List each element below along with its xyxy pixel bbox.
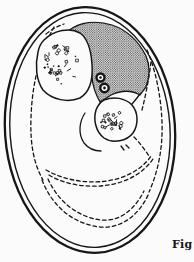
equatorial-dashed-line-upper xyxy=(46,156,151,182)
equatorial-dashed-line-lower xyxy=(49,159,153,186)
bottom-dashed-arc-inner xyxy=(48,179,144,220)
figure-canvas: Fig xyxy=(0,0,194,262)
polar-body-dot-2 xyxy=(103,87,106,90)
left-cell-outline xyxy=(36,30,92,100)
embryo-egg-diagram xyxy=(0,0,194,262)
cell-boundary-dash-right-short xyxy=(134,137,149,156)
tail-dashes-below-small-cell xyxy=(121,145,129,150)
small-cell-region xyxy=(95,98,137,141)
figure-caption-label: Fig xyxy=(172,238,192,251)
stipple-to-cell-connector xyxy=(131,94,140,105)
small-cell-outline xyxy=(95,98,137,141)
bottom-dashed-arc-outer xyxy=(42,180,149,227)
left-cell-region xyxy=(36,30,92,100)
polar-body-dot-1 xyxy=(99,76,102,79)
